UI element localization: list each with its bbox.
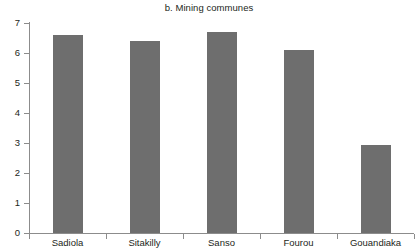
x-axis-label-fourou: Fourou <box>260 237 337 249</box>
y-axis-tick-label: 0 <box>15 227 20 238</box>
y-axis-tick-label: 5 <box>15 77 20 88</box>
bar-sitakilly <box>130 41 160 233</box>
x-axis-label-sanso: Sanso <box>183 237 260 249</box>
y-axis-tick-label: 3 <box>15 137 20 148</box>
x-axis-label-sadiola: Sadiola <box>29 237 106 249</box>
bar-gouandiaka <box>361 145 391 234</box>
bar-chart-figure: b. Mining communes 01234567 SadiolaSitak… <box>0 0 418 251</box>
x-axis-label-sitakilly: Sitakilly <box>106 237 183 249</box>
y-axis-tick-label: 6 <box>15 47 20 58</box>
x-axis-tick <box>414 234 415 239</box>
chart-title: b. Mining communes <box>0 2 418 13</box>
y-axis-tick-label: 2 <box>15 167 20 178</box>
bar-sanso <box>207 32 237 233</box>
y-axis-tick-label: 7 <box>15 17 20 28</box>
plot-area <box>29 23 414 233</box>
y-axis-tick-label: 1 <box>15 197 20 208</box>
x-axis-line <box>29 233 414 234</box>
bar-fourou <box>284 50 314 233</box>
y-axis-tick-label: 4 <box>15 107 20 118</box>
bar-sadiola <box>53 35 83 233</box>
x-axis-label-gouandiaka: Gouandiaka <box>337 237 414 249</box>
